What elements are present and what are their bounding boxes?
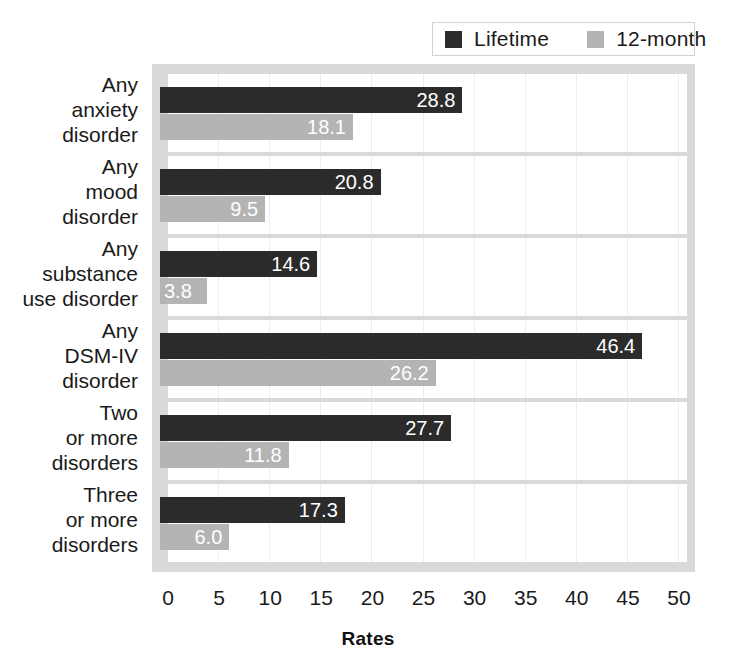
- chart-legend: Lifetime 12-month: [432, 22, 695, 56]
- legend-label-12-month: 12-month: [616, 27, 706, 51]
- y-axis-label-line: DSM-IV: [62, 343, 138, 368]
- legend-swatch-lifetime-icon: [445, 31, 462, 48]
- bar-group: 28.818.1: [160, 87, 687, 140]
- x-axis-tick-label: 50: [667, 586, 690, 610]
- legend-swatch-12-month-icon: [587, 31, 604, 48]
- bar-group: 17.36.0: [160, 497, 687, 550]
- y-axis-label-line: or more: [52, 425, 138, 450]
- y-axis-label-line: disorder: [62, 368, 138, 393]
- bar-value-label: 20.8: [335, 172, 381, 192]
- x-axis-tick-label: 5: [213, 586, 225, 610]
- y-axis-label: Threeor moredisorders: [52, 482, 138, 557]
- y-axis-label-line: disorder: [62, 204, 138, 229]
- y-axis-label-line: disorders: [52, 450, 138, 475]
- y-axis-label: Anyanxietydisorder: [62, 72, 138, 147]
- bar-value-label: 9.5: [230, 199, 265, 219]
- y-axis-label-line: use disorder: [22, 286, 138, 311]
- y-axis-label-line: Any: [62, 72, 138, 97]
- y-axis-label-line: Any: [62, 154, 138, 179]
- bar-12-month: 11.8: [160, 442, 289, 468]
- x-axis-ticks: 05101520253035404550: [152, 586, 695, 616]
- bar-12-month: 6.0: [160, 524, 229, 550]
- bar-lifetime: 14.6: [160, 251, 317, 277]
- x-axis-title: Rates: [0, 628, 736, 650]
- y-axis-label: Twoor moredisorders: [52, 400, 138, 475]
- x-axis-tick-label: 25: [412, 586, 435, 610]
- bar-12-month: 3.8: [160, 278, 207, 304]
- x-axis-tick-label: 35: [514, 586, 537, 610]
- x-axis-tick-label: 20: [361, 586, 384, 610]
- bar-value-label: 3.8: [164, 281, 192, 301]
- y-axis-label-line: Two: [52, 400, 138, 425]
- legend-label-lifetime: Lifetime: [474, 27, 549, 51]
- y-axis-label-line: Three: [52, 482, 138, 507]
- bar-group: 20.89.5: [160, 169, 687, 222]
- y-axis-label-line: disorder: [62, 122, 138, 147]
- x-axis-tick-label: 40: [565, 586, 588, 610]
- y-axis-label-line: disorders: [52, 532, 138, 557]
- bar-value-label: 46.4: [596, 336, 642, 356]
- y-axis-label-line: or more: [52, 507, 138, 532]
- bar-12-month: 26.2: [160, 360, 436, 386]
- plot-area: 28.818.120.89.514.63.846.426.227.711.817…: [160, 72, 687, 564]
- bar-lifetime: 27.7: [160, 415, 451, 441]
- y-axis-label: AnyDSM-IVdisorder: [62, 318, 138, 393]
- bar-value-label: 28.8: [416, 90, 462, 110]
- bar-value-label: 26.2: [390, 363, 436, 383]
- y-axis-label-line: anxiety: [62, 97, 138, 122]
- bar-value-label: 6.0: [195, 527, 230, 547]
- bar-lifetime: 17.3: [160, 497, 345, 523]
- x-axis-tick-label: 45: [616, 586, 639, 610]
- x-axis-tick-label: 10: [259, 586, 282, 610]
- bar-lifetime: 28.8: [160, 87, 462, 113]
- bar-value-label: 18.1: [307, 117, 353, 137]
- bar-value-label: 27.7: [405, 418, 451, 438]
- bar-group: 14.63.8: [160, 251, 687, 304]
- y-axis-label: Anysubstanceuse disorder: [22, 236, 138, 311]
- bar-lifetime: 46.4: [160, 333, 642, 359]
- bar-value-label: 14.6: [271, 254, 317, 274]
- y-axis-label: Anymooddisorder: [62, 154, 138, 229]
- bar-lifetime: 20.8: [160, 169, 381, 195]
- bar-value-label: 17.3: [299, 500, 345, 520]
- x-axis-tick-label: 0: [162, 586, 174, 610]
- y-axis-label-line: mood: [62, 179, 138, 204]
- bar-12-month: 9.5: [160, 196, 265, 222]
- bar-group: 46.426.2: [160, 333, 687, 386]
- legend-entry-12-month: 12-month: [587, 23, 706, 55]
- plot-frame: 28.818.120.89.514.63.846.426.227.711.817…: [152, 64, 695, 572]
- x-axis-tick-label: 30: [463, 586, 486, 610]
- y-axis-label-line: Any: [62, 318, 138, 343]
- bar-group: 27.711.8: [160, 415, 687, 468]
- y-axis-label-line: substance: [22, 261, 138, 286]
- bar-value-label: 11.8: [244, 445, 288, 465]
- y-axis-label-line: Any: [22, 236, 138, 261]
- y-axis-labels: AnyanxietydisorderAnymooddisorderAnysubs…: [0, 64, 145, 572]
- bar-12-month: 18.1: [160, 114, 353, 140]
- x-axis-tick-label: 15: [310, 586, 333, 610]
- legend-entry-lifetime: Lifetime: [445, 23, 549, 55]
